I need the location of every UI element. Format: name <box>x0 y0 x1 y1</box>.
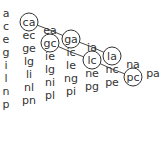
pair-label: l <box>4 72 7 85</box>
pair-label: ga <box>64 33 78 46</box>
pair-label: ie <box>45 50 55 63</box>
pair-label: i <box>4 59 7 72</box>
pair-label: e <box>3 33 10 46</box>
pair-label: pc <box>126 71 139 84</box>
pair-label: lc <box>87 54 96 67</box>
pair-label: pe <box>105 76 119 89</box>
pair-label: ng <box>64 72 78 85</box>
pair-label: ne <box>85 67 99 80</box>
pair-label: nl <box>24 81 34 94</box>
pair-label: pn <box>22 94 36 107</box>
pair-label: p <box>3 98 10 111</box>
pair-label: ec <box>23 29 36 42</box>
pair-triangle-diagram: acegilnpcaecgelglinlpneagcielgniplgaicle… <box>0 0 165 141</box>
pair-label: pg <box>85 80 99 93</box>
pair-label: pa <box>146 67 160 80</box>
pair-labels: acegilnpcaecgelglinlpneagcielgniplgaicle… <box>3 7 160 111</box>
pair-label: g <box>3 46 10 59</box>
pair-label: ia <box>87 41 97 54</box>
pair-label: ni <box>45 76 55 89</box>
pair-label: pl <box>45 89 55 102</box>
pair-label: ge <box>22 42 36 55</box>
pair-label: lg <box>24 55 34 68</box>
pair-label: ea <box>43 24 57 37</box>
pair-label: ic <box>66 46 75 59</box>
pair-label: n <box>3 85 10 98</box>
pair-label: na <box>126 58 140 71</box>
pair-label: nc <box>105 63 118 76</box>
pair-label: lg <box>45 63 55 76</box>
pair-label: la <box>107 50 117 63</box>
pair-label: ca <box>23 16 36 29</box>
pair-label: c <box>3 20 9 33</box>
circle-markers <box>20 13 142 86</box>
pair-label: le <box>66 59 76 72</box>
pair-label: a <box>3 7 10 20</box>
pair-label: gc <box>43 37 56 50</box>
pair-label: pi <box>66 85 76 98</box>
pair-label: li <box>26 68 32 81</box>
